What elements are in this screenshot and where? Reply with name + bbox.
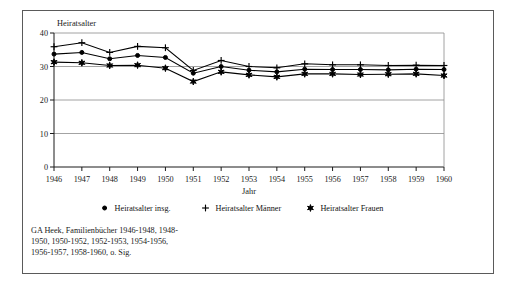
marker-star: [190, 78, 196, 85]
marker-plus: [357, 61, 364, 68]
legend-label-2: Heiratsalter Männer: [216, 204, 282, 213]
x-tick-label-1947: 1947: [74, 175, 90, 184]
marker-star: [246, 71, 252, 78]
x-tick-label-1956: 1956: [324, 175, 340, 184]
chart-plot-area: Heiratsalter 40 30 20 10 0: [23, 11, 495, 275]
marker-diamond: [108, 57, 112, 61]
marker-plus: [329, 61, 336, 68]
x-tick-label-1948: 1948: [102, 175, 118, 184]
legend-label-1: Heiratsalter insg.: [115, 204, 171, 213]
x-tick-label-1949: 1949: [129, 175, 145, 184]
marker-plus: [273, 64, 280, 71]
x-tick-label-1958: 1958: [380, 175, 396, 184]
marker-plus: [246, 63, 253, 70]
marker-star: [385, 71, 391, 78]
gridlines: [54, 33, 444, 134]
marker-star: [51, 59, 57, 66]
chart-legend: Heiratsalter insg.Heiratsalter MännerHei…: [103, 204, 384, 213]
x-tick-label-1954: 1954: [269, 175, 285, 184]
y-tick-label-30: 30: [40, 63, 48, 72]
figure-frame: Heiratsalter 40 30 20 10 0: [22, 10, 494, 274]
marker-star: [330, 70, 336, 77]
x-tick-label-1960: 1960: [436, 175, 452, 184]
marker-plus: [78, 39, 85, 46]
y-axis-title: Heiratsalter: [57, 19, 96, 28]
marker-plus: [202, 205, 209, 212]
y-tick-label-10: 10: [40, 130, 48, 139]
y-tick-label-0: 0: [44, 163, 48, 172]
marker-plus: [134, 43, 141, 50]
marker-star: [302, 70, 308, 77]
x-tick-label-1951: 1951: [185, 175, 201, 184]
y-tick-label-20: 20: [40, 96, 48, 105]
marker-diamond: [136, 53, 140, 57]
legend-item-3: Heiratsalter Frauen: [308, 204, 384, 213]
series-3: [51, 59, 447, 85]
x-tick-label-1955: 1955: [297, 175, 313, 184]
marker-star: [308, 205, 314, 212]
marker-diamond: [52, 52, 56, 56]
marker-star: [413, 70, 419, 77]
marker-plus: [51, 43, 58, 50]
x-axis-ticks: [54, 167, 444, 171]
marker-star: [357, 71, 363, 78]
marker-star: [274, 73, 280, 80]
x-tick-label-1959: 1959: [408, 175, 424, 184]
marker-plus: [218, 57, 225, 64]
x-axis-title: Jahr: [242, 187, 256, 196]
marker-plus: [385, 62, 392, 69]
line-chart-svg: Heiratsalter 40 30 20 10 0: [23, 11, 495, 275]
marker-diamond: [163, 55, 167, 59]
marker-diamond: [80, 50, 84, 54]
x-tick-label-1952: 1952: [213, 175, 229, 184]
marker-star: [162, 65, 168, 72]
marker-star: [79, 59, 85, 66]
x-tick-label-1953: 1953: [241, 175, 257, 184]
data-series-layer: [51, 39, 448, 85]
legend-item-1: Heiratsalter insg.: [103, 204, 171, 213]
x-axis-tick-labels: 1946194719481949195019511952195319541955…: [46, 175, 452, 184]
marker-plus: [413, 62, 420, 69]
source-note-line-2: 1950, 1950-1952, 1952-1953, 1954-1956,: [31, 237, 168, 246]
marker-diamond: [103, 206, 107, 210]
x-tick-label-1946: 1946: [46, 175, 62, 184]
marker-star: [135, 62, 141, 69]
marker-star: [218, 68, 224, 75]
x-tick-label-1950: 1950: [157, 175, 173, 184]
legend-label-3: Heiratsalter Frauen: [320, 204, 383, 213]
y-tick-label-40: 40: [40, 29, 48, 38]
legend-item-2: Heiratsalter Männer: [202, 204, 281, 213]
marker-star: [441, 72, 447, 79]
marker-star: [107, 62, 113, 69]
marker-plus: [441, 62, 448, 69]
marker-plus: [106, 49, 113, 56]
source-note-line-1: GA Heek, Familienbücher 1946-1948, 1948-: [31, 226, 178, 235]
x-tick-label-1957: 1957: [352, 175, 368, 184]
source-note-line-3: 1956-1957, 1958-1960, o. Sig.: [31, 248, 131, 257]
